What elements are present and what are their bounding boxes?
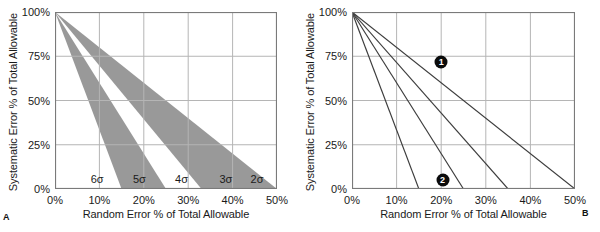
panel-b-xtick-0: 0% (344, 194, 360, 206)
panel-letter-b: B (582, 208, 589, 218)
panel-a-ytick-50: 50% (28, 95, 50, 107)
panel-a-ytick-75: 75% (28, 50, 50, 62)
panel-a: Systematic Error % of Total Allowable Ra… (0, 0, 300, 232)
annotation-marker-2: 2 (436, 174, 449, 187)
panel-b-xtick-50: 50% (564, 194, 586, 206)
panel-b-xtick-40: 40% (519, 194, 541, 206)
panel-a-xtick-40: 40% (222, 194, 244, 206)
zone-label-6-sigma: 6σ (91, 173, 104, 185)
figure-sigma-decision-charts: Systematic Error % of Total Allowable Ra… (0, 0, 600, 232)
panel-b-xtick-30: 30% (475, 194, 497, 206)
panel-b-y-axis-title: Systematic Error % of Total Allowable (304, 12, 316, 192)
zone-label-5-sigma: 5σ (133, 173, 146, 185)
panel-a-plot-area: 100% 75% 50% 25% 0% 0% 10% 20% 30% 40% 5… (55, 12, 277, 189)
panel-b-ytick-100: 100% (319, 6, 347, 18)
panel-b-plot-area: 100% 75% 50% 25% 0% 0% 10% 20% 30% 40% 5… (352, 12, 575, 189)
panel-b-x-axis-title: Random Error % of Total Allowable (352, 208, 575, 220)
panel-a-ytick-25: 25% (28, 139, 50, 151)
panel-b-ytick-50: 50% (325, 95, 347, 107)
panel-b-ytick-25: 25% (325, 139, 347, 151)
panel-b-xtick-20: 20% (430, 194, 452, 206)
panel-a-xtick-30: 30% (177, 194, 199, 206)
panel-a-svg (55, 12, 277, 189)
panel-a-xtick-50: 50% (266, 194, 288, 206)
panel-a-xtick-20: 20% (133, 194, 155, 206)
panel-a-x-axis-title: Random Error % of Total Allowable (55, 208, 277, 220)
panel-a-y-axis-title: Systematic Error % of Total Allowable (7, 12, 19, 192)
panel-b-svg (352, 12, 575, 189)
panel-a-xtick-0: 0% (47, 194, 63, 206)
panel-b-ytick-75: 75% (325, 50, 347, 62)
panel-b-xtick-10: 10% (386, 194, 408, 206)
annotation-marker-1: 1 (435, 55, 448, 68)
panel-b: Systematic Error % of Total Allowable Ra… (300, 0, 600, 232)
panel-letter-a: A (3, 212, 10, 222)
zone-label-3-sigma: 3σ (219, 173, 232, 185)
panel-a-ytick-100: 100% (22, 6, 50, 18)
zone-label-2-sigma: 2σ (251, 173, 264, 185)
panel-a-xtick-10: 10% (88, 194, 110, 206)
zone-label-4-sigma: 4σ (175, 173, 188, 185)
